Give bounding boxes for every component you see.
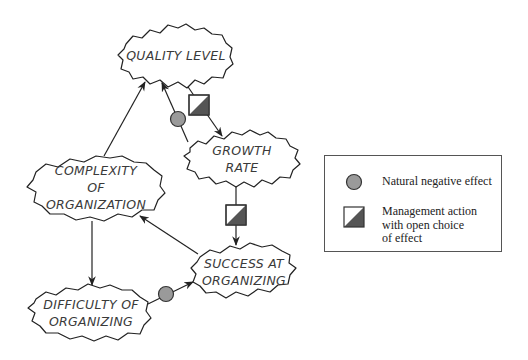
legend-label-natural-negative: Natural negative effect [382, 175, 492, 189]
node-growth-label: GROWTH RATE [200, 142, 284, 176]
management-action-icon [189, 95, 209, 115]
gray-circle-icon [347, 175, 362, 190]
node-complexity-label: COMPLEXITY OF ORGANIZATION [40, 162, 152, 213]
legend-label-management-action: Management action with open choice of ef… [382, 205, 477, 246]
causal-loop-diagram: QUALITY LEVEL GROWTH RATE COMPLEXITY OF … [0, 0, 528, 360]
node-success-label: SUCCESS AT ORGANIZING [196, 255, 292, 289]
edge-complexity-to-quality [104, 82, 145, 156]
legend: Natural negative effect Management actio… [324, 155, 502, 252]
node-difficulty-label: DIFFICULTY OF ORGANIZING [38, 296, 144, 330]
edge-success-to-complexity [140, 216, 198, 254]
node-quality-label: QUALITY LEVEL [124, 47, 228, 64]
natural-negative-effect-icon [159, 287, 174, 302]
half-filled-square-icon [344, 207, 364, 227]
natural-negative-effect-icon [171, 112, 186, 127]
management-action-icon [226, 205, 246, 225]
